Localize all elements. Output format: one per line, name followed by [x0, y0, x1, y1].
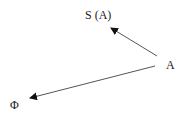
edge-a-to-phi: [30, 66, 155, 98]
node-a: A: [166, 59, 175, 71]
edge-a-to-sa: [111, 28, 157, 56]
node-s-of-a: S (A): [85, 9, 111, 21]
node-phi: Φ: [10, 99, 19, 111]
